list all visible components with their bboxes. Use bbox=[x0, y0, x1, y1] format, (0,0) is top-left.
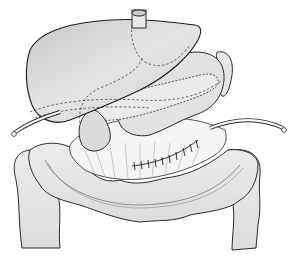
drain-tube-end-right bbox=[282, 128, 287, 133]
vena-cava-opening bbox=[132, 10, 146, 16]
anatomy-illustration bbox=[0, 0, 297, 258]
drain-tube-end-left bbox=[12, 132, 17, 137]
